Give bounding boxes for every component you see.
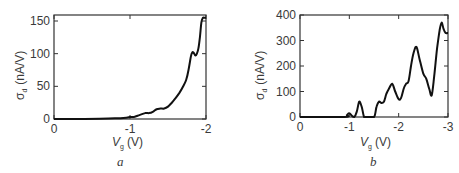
x-tick-label: -1	[344, 120, 355, 134]
y-tick-label: 100	[30, 47, 50, 61]
y-tick-label: 300	[276, 34, 296, 48]
chart-panel-a: 050100150 0-1-2 Vg(V) σd(nA/V) a	[13, 14, 212, 169]
chart-panel-b: 0100200300400 0-1-2-3 Vg(V) σd(nA/V) b	[253, 8, 454, 169]
plot-frame-a	[54, 15, 206, 119]
x-tick-label: 0	[297, 120, 304, 134]
y-ticks-a: 050100150	[30, 14, 206, 126]
y-tick-label: 200	[276, 59, 296, 73]
x-axis-label-a: Vg(V)	[112, 135, 143, 151]
x-tick-label: -2	[393, 120, 404, 134]
chart-figure: 050100150 0-1-2 Vg(V) σd(nA/V) a 0100200…	[0, 0, 459, 173]
plot-frame-b	[300, 15, 448, 117]
y-tick-label: 150	[30, 14, 50, 28]
y-tick-label: 50	[37, 79, 51, 93]
x-tick-label: -3	[443, 120, 454, 134]
y-tick-label: 0	[289, 110, 296, 124]
data-line-b	[300, 23, 448, 117]
y-axis-label-a: σd(nA/V)	[13, 51, 28, 100]
x-axis-label-b: Vg(V)	[360, 135, 391, 151]
data-line-a	[54, 17, 206, 119]
y-tick-label: 0	[43, 112, 50, 126]
x-tick-label: -2	[201, 122, 212, 136]
panel-label-a: a	[117, 154, 124, 169]
y-tick-label: 100	[276, 85, 296, 99]
y-tick-label: 400	[276, 8, 296, 22]
x-tick-label: -1	[125, 122, 136, 136]
y-axis-label-b: σd(nA/V)	[253, 51, 268, 100]
panel-label-b: b	[370, 154, 377, 169]
x-tick-label: 0	[51, 122, 58, 136]
